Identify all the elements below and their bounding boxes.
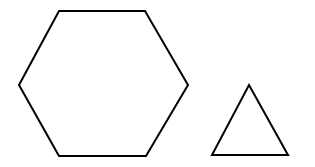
canvas-background xyxy=(0,0,315,167)
shape-canvas xyxy=(0,0,315,167)
shapes-illustration xyxy=(0,0,315,167)
